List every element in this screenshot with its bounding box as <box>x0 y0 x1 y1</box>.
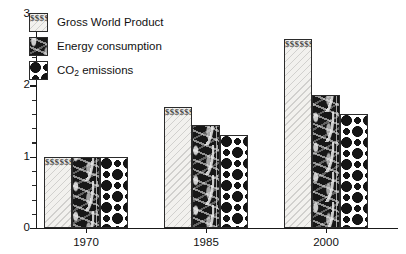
y-tick-major-0 <box>30 228 36 229</box>
y-tick-label-3: 3 <box>8 8 30 20</box>
y-tick-minor-0-6 <box>32 185 36 186</box>
bar-1985-energy-consumption <box>192 125 220 229</box>
bar-1985-gross-world-product: $$$$$$$$$$$$$$$$$$$$$$$$$$$$$$$$$$$$$$$$… <box>164 107 192 228</box>
legend-co2-prefix: CO <box>57 64 74 76</box>
x-tick-label-1970: 1970 <box>56 236 116 249</box>
bar-2000-energy-consumption <box>312 95 340 229</box>
gwp-dollar-glyphs: $$$$$$$$$$$$$$$$$$$$$$$$$$$$$$$$$$$$$$$$… <box>285 40 311 227</box>
y-tick-minor-1-2 <box>32 142 36 143</box>
x-tick-mark-2000 <box>326 228 327 233</box>
legend-label-gross-world-product: Gross World Product <box>57 16 164 29</box>
bar-chart: 3 2 1 0 $$$$$$$$$$$$$$$$$$$$$$$$$$$$$$$$… <box>0 0 406 254</box>
x-axis-line <box>36 228 398 229</box>
y-tick-minor-1-4 <box>32 128 36 129</box>
bar-1985-co2-emissions <box>220 135 248 228</box>
y-tick-label-3-wrap: 3 <box>0 8 30 20</box>
legend-co2-subscript: 2 <box>74 68 79 78</box>
legend-label-co2-emissions: CO2 emissions <box>57 64 133 78</box>
y-tick-label-1: 1 <box>8 151 30 163</box>
x-tick-mark-1970 <box>86 228 87 233</box>
gwp-dollar-glyphs: $$$$$$$$$$$$$$$$$$$$$$$$$$$$$$$$$$$$$$$$… <box>30 14 47 31</box>
y-tick-label-1-wrap: 1 <box>0 151 30 163</box>
energy-swirl-texture <box>192 125 220 229</box>
legend-label-energy-consumption: Energy consumption <box>57 40 162 53</box>
legend-co2-suffix: emissions <box>79 64 133 76</box>
y-tick-minor-0-8 <box>32 171 36 172</box>
gwp-dollar-glyphs: $$$$$$$$$$$$$$$$$$$$$$$$$$$$$$$$$$$$$$$$… <box>45 158 71 227</box>
co2-dots-texture <box>341 115 367 227</box>
y-tick-label-2: 2 <box>8 79 30 91</box>
y-tick-label-2-wrap: 2 <box>0 79 30 91</box>
y-tick-minor-1-8 <box>32 100 36 101</box>
y-tick-minor-2-4 <box>32 57 36 58</box>
y-tick-label-0: 0 <box>8 222 30 234</box>
bar-1970-co2-emissions <box>100 157 128 228</box>
co2-dots-texture <box>221 136 247 227</box>
energy-swirl-texture <box>312 95 340 229</box>
y-tick-label-0-wrap: 0 <box>0 222 30 234</box>
bar-1970-energy-consumption <box>72 157 100 228</box>
swirl-pattern-swatch-icon <box>29 37 48 56</box>
x-tick-label-2000: 2000 <box>296 236 356 249</box>
energy-swirl-texture <box>29 37 48 56</box>
bar-2000-co2-emissions <box>340 114 368 228</box>
y-tick-major-2 <box>30 85 36 86</box>
y-tick-major-1 <box>30 157 36 158</box>
y-tick-minor-0-2 <box>32 214 36 215</box>
bar-2000-gross-world-product: $$$$$$$$$$$$$$$$$$$$$$$$$$$$$$$$$$$$$$$$… <box>284 39 312 228</box>
y-tick-minor-1-6 <box>32 114 36 115</box>
y-tick-minor-0-4 <box>32 200 36 201</box>
co2-dots-texture <box>30 62 47 79</box>
gwp-dollar-glyphs: $$$$$$$$$$$$$$$$$$$$$$$$$$$$$$$$$$$$$$$$… <box>165 108 191 227</box>
dollar-pattern-swatch-icon: $$$$$$$$$$$$$$$$$$$$$$$$$$$$$$$$$$$$$$$$… <box>29 13 48 32</box>
co2-dots-texture <box>101 158 127 227</box>
energy-swirl-texture <box>72 157 100 228</box>
x-tick-mark-1985 <box>206 228 207 233</box>
bar-1970-gross-world-product: $$$$$$$$$$$$$$$$$$$$$$$$$$$$$$$$$$$$$$$$… <box>44 157 72 228</box>
dots-pattern-swatch-icon <box>29 61 48 80</box>
x-tick-label-1985: 1985 <box>176 236 236 249</box>
